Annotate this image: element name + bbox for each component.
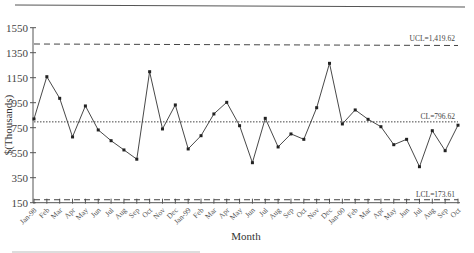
y-tick-label: 1350 [6, 47, 29, 59]
data-point-marker [187, 147, 190, 150]
x-tick-label: Feb [345, 206, 359, 220]
ucl-label: UCL=1,419.62 [410, 34, 456, 43]
data-point-marker [58, 97, 61, 100]
data-point-marker [392, 143, 395, 146]
lcl-label: LCL=173.61 [416, 190, 455, 199]
data-point-marker [341, 122, 344, 125]
series-line [34, 63, 458, 166]
data-point-marker [110, 139, 113, 142]
x-axis-title: Month [231, 230, 261, 242]
x-tick-label: Sep [281, 206, 295, 220]
data-point-marker [289, 132, 292, 135]
data-point-marker [367, 118, 370, 121]
data-point-marker [174, 103, 177, 106]
control-limits: UCL=1,419.62CL=796.62LCL=173.61 [34, 34, 458, 200]
y-tick-label: 950 [12, 97, 29, 109]
control-chart: 150350550750950115013501550 Jan-98FebMar… [0, 0, 474, 253]
x-tick-label: Feb [37, 206, 51, 220]
x-tick-label: Sep [435, 206, 449, 220]
data-point-marker [97, 128, 100, 131]
y-tick-label: 1150 [6, 72, 28, 84]
data-point-marker [84, 104, 87, 107]
y-tick-label: 750 [12, 122, 29, 134]
data-point-marker [238, 124, 241, 127]
data-series [33, 62, 460, 168]
data-point-marker [431, 129, 434, 132]
y-axis-title: $(Thousands) [2, 94, 15, 155]
x-tick-label: Feb [191, 206, 205, 220]
x-tick-label: Jun [89, 206, 103, 220]
data-point-marker [354, 108, 357, 111]
data-point-marker [135, 158, 138, 161]
data-point-marker [225, 101, 228, 104]
data-point-marker [277, 145, 280, 148]
data-point-marker [444, 149, 447, 152]
data-point-marker [302, 138, 305, 141]
ucl-line [34, 44, 458, 46]
data-point-marker [328, 62, 331, 65]
y-tick-label: 1550 [6, 22, 29, 34]
data-point-marker [418, 165, 421, 168]
x-tick-label: May [228, 206, 244, 222]
data-point-marker [45, 75, 48, 78]
y-tick-label: 150 [12, 197, 29, 209]
data-point-marker [148, 70, 151, 73]
y-tick-label: 350 [12, 172, 29, 184]
x-tick-label: May [382, 206, 398, 222]
data-point-marker [122, 148, 125, 151]
top-rule [15, 5, 465, 7]
cl-label: CL=796.62 [421, 112, 456, 121]
data-point-marker [405, 138, 408, 141]
x-tick-label: May [74, 206, 90, 222]
x-tick-label: Sep [127, 206, 141, 220]
data-point-marker [251, 161, 254, 164]
x-tick-label: Jun [397, 206, 411, 220]
y-tick-label: 550 [12, 147, 29, 159]
data-point-marker [315, 106, 318, 109]
data-point-marker [457, 124, 460, 127]
x-tick-label: Oct [448, 205, 463, 220]
data-point-marker [200, 134, 203, 137]
data-point-marker [71, 135, 74, 138]
data-point-marker [161, 127, 164, 130]
data-point-marker [33, 117, 36, 120]
x-axis: Jan-98FebMarAprMayJunJulAugSepOctNovDecJ… [18, 199, 463, 227]
x-tick-label: Jun [243, 206, 257, 220]
data-point-marker [212, 112, 215, 115]
data-point-marker [379, 125, 382, 128]
data-point-marker [264, 117, 267, 120]
